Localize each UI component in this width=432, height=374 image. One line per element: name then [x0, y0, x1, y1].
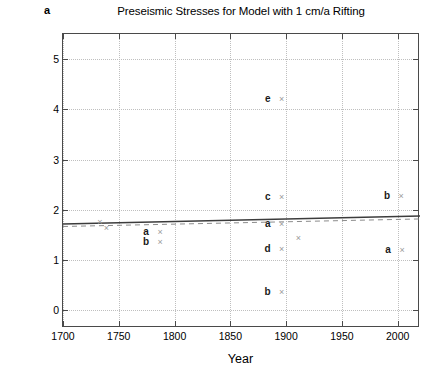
data-point-marker: ×	[279, 245, 284, 254]
data-point-label: d	[265, 244, 271, 254]
panel-label: a	[44, 4, 50, 16]
x-axis-tick-label: 1950	[330, 330, 353, 342]
data-point-marker: ×	[157, 228, 162, 237]
data-point-label: a	[385, 245, 391, 255]
x-axis-tick-label: 1750	[107, 330, 130, 342]
data-point-marker: ×	[398, 192, 403, 201]
y-axis-tick-label: 1	[53, 254, 59, 266]
data-point-marker: ×	[97, 217, 102, 226]
data-point-label: b	[384, 191, 390, 201]
y-axis-tick-label: 4	[53, 103, 59, 115]
y-axis-tick-label: 0	[53, 304, 59, 316]
x-axis-tick-label: 1900	[274, 330, 297, 342]
data-point-label: c	[265, 192, 271, 202]
data-point-marker: ×	[400, 245, 405, 254]
data-point-label: e	[265, 94, 271, 104]
data-point-label: b	[143, 237, 149, 247]
data-point-marker: ×	[104, 224, 109, 233]
x-axis-tick-label: 1800	[163, 330, 186, 342]
plot-area: 0123451700175018001850190019502000 ×××a×…	[62, 33, 419, 327]
data-point-marker: ×	[279, 219, 284, 228]
chart-title: Preseismic Stresses for Model with 1 cm/…	[62, 5, 420, 17]
y-axis-tick-label: 5	[53, 53, 59, 65]
x-axis-title: Year	[62, 352, 419, 366]
data-point-marker: ×	[296, 233, 301, 242]
data-point-marker: ×	[157, 238, 162, 247]
y-axis-tick-label: 3	[53, 154, 59, 166]
data-point-marker: ×	[279, 192, 284, 201]
x-axis-tick-label: 2000	[386, 330, 409, 342]
y-axis-tick-label: 2	[53, 204, 59, 216]
data-point-label: b	[265, 287, 271, 297]
solid-trend-line	[63, 216, 420, 224]
trend-lines	[63, 34, 418, 326]
x-axis-tick-label: 1700	[51, 330, 74, 342]
data-point-marker: ×	[279, 95, 284, 104]
x-axis-tick-label: 1850	[219, 330, 242, 342]
figure-panel: a Preseismic Stresses for Model with 1 c…	[0, 0, 432, 374]
data-point-marker: ×	[279, 287, 284, 296]
data-point-label: a	[265, 219, 271, 229]
